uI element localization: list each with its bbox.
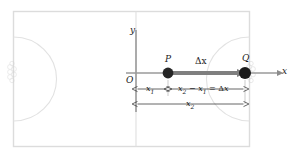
point-marker-Q xyxy=(239,67,251,79)
figure-canvas: y x O P Q Δx x1 x2 − x1 = Δx x2 xyxy=(0,0,305,162)
dimension-label-x2: x2 xyxy=(186,100,194,110)
dimension-label-x1: x1 xyxy=(146,85,154,95)
point-label-Q: Q xyxy=(242,54,249,63)
displacement-label: Δx xyxy=(195,57,207,66)
diagram-svg xyxy=(0,0,305,162)
origin-label: O xyxy=(126,76,133,85)
point-label-P: P xyxy=(165,55,171,64)
y-axis-label: y xyxy=(130,26,135,35)
x-axis-label: x xyxy=(282,67,287,76)
point-marker-P xyxy=(163,68,174,79)
dimension-label-x2-sub: 2 xyxy=(191,103,195,110)
dim-delta-equals: = xyxy=(206,84,218,93)
dim-delta-var: x xyxy=(224,84,229,93)
left-goal-net-cluster xyxy=(8,61,17,82)
field-left-goal-arc xyxy=(14,37,57,121)
field-right-goal-arc xyxy=(206,37,249,121)
dimension-label-x1-sub: 1 xyxy=(151,88,155,95)
dimension-label-delta: x2 − x1 = Δx xyxy=(178,85,229,95)
dim-delta-minus: − xyxy=(186,84,198,93)
